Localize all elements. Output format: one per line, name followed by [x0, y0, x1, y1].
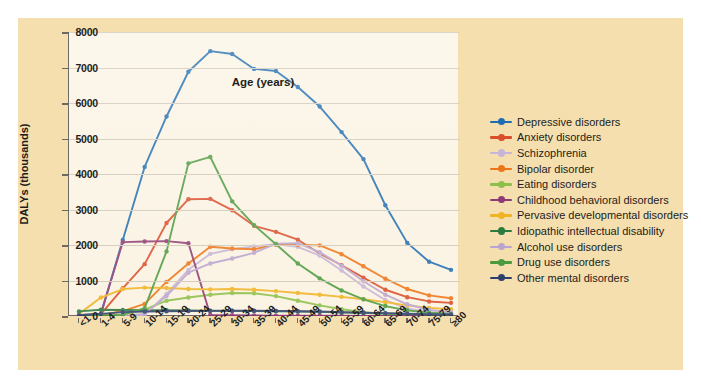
legend-item[interactable]: Pervasive developmental disorders: [490, 208, 680, 224]
chart-figure: 010002000300040005000600070008000 DALYs …: [18, 18, 683, 370]
gridline: [69, 32, 459, 33]
legend-label: Bipolar disorder: [517, 163, 594, 175]
legend-label: Drug use disorders: [517, 256, 610, 268]
data-point: [121, 287, 125, 291]
data-point: [230, 246, 234, 250]
gridline: [69, 139, 459, 140]
data-point: [186, 70, 190, 74]
legend-item[interactable]: Bipolar disorder: [490, 161, 680, 177]
data-point: [361, 284, 365, 288]
legend-label: Pervasive developmental disorders: [517, 209, 688, 221]
data-point: [186, 287, 190, 291]
legend-label: Alcohol use disorders: [517, 241, 622, 253]
y-tick-label: 3000: [60, 204, 98, 216]
legend-label: Depressive disorders: [517, 116, 620, 128]
data-point: [427, 299, 431, 303]
data-point: [186, 270, 190, 274]
data-point: [274, 230, 278, 234]
plot-area: [68, 32, 458, 316]
data-point: [318, 293, 322, 297]
data-point: [339, 263, 343, 267]
data-point: [339, 130, 343, 134]
legend-color-swatch: [490, 194, 512, 206]
legend-label: Childhood behavioral disorders: [517, 194, 669, 206]
data-point: [208, 49, 212, 53]
data-point: [383, 300, 387, 304]
y-axis-tick-labels: 010002000300040005000600070008000: [62, 32, 106, 316]
data-point: [274, 69, 278, 73]
data-point: [208, 252, 212, 256]
legend-color-swatch: [490, 256, 512, 268]
legend-item[interactable]: Childhood behavioral disorders: [490, 192, 680, 208]
y-axis-title: DALYs (thousands): [18, 123, 30, 224]
data-point: [339, 268, 343, 272]
data-point: [274, 289, 278, 293]
legend-label: Idiopathic intellectual disability: [517, 225, 664, 237]
data-point: [383, 203, 387, 207]
legend-color-swatch: [490, 241, 512, 253]
legend-item[interactable]: Depressive disorders: [490, 114, 680, 130]
data-point: [230, 256, 234, 260]
series-anxiety-disorders: [77, 197, 453, 316]
legend-item[interactable]: Alcohol use disorders: [490, 239, 680, 255]
legend-item[interactable]: Idiopathic intellectual disability: [490, 223, 680, 239]
data-point: [318, 250, 322, 254]
data-point: [449, 296, 453, 300]
x-axis-title: Age (years): [68, 76, 458, 88]
y-tick-label: 6000: [60, 97, 98, 109]
x-axis-tick-labels: <11-45-910-1415-1920-2425-2930-3435-3940…: [68, 318, 458, 358]
gridline: [69, 245, 459, 246]
data-point: [208, 261, 212, 265]
legend-item[interactable]: Other mental disorders: [490, 270, 680, 286]
plot-wrapper: 010002000300040005000600070008000 DALYs …: [68, 32, 460, 335]
data-point: [142, 239, 146, 243]
data-point: [252, 288, 256, 292]
data-point: [405, 295, 409, 299]
data-point: [339, 288, 343, 292]
legend-item[interactable]: Anxiety disorders: [490, 130, 680, 146]
legend-color-swatch: [490, 147, 512, 159]
data-point: [427, 293, 431, 297]
data-point: [164, 286, 168, 290]
data-point: [361, 297, 365, 301]
data-point: [230, 287, 234, 291]
data-point: [142, 165, 146, 169]
data-point: [296, 291, 300, 295]
legend-color-swatch: [490, 131, 512, 143]
gridline: [69, 103, 459, 104]
data-point: [274, 294, 278, 298]
data-point: [186, 295, 190, 299]
data-point: [164, 299, 168, 303]
legend-item[interactable]: Eating disorders: [490, 176, 680, 192]
series-line: [79, 199, 451, 315]
data-point: [252, 223, 256, 227]
scan-artifact: [0, 0, 701, 16]
chart-legend: Depressive disordersAnxiety disordersSch…: [490, 114, 680, 286]
gridline: [69, 281, 459, 282]
data-point: [164, 294, 168, 298]
series-drug-use-disorders: [77, 155, 453, 316]
legend-item[interactable]: Schizophrenia: [490, 145, 680, 161]
legend-color-swatch: [490, 209, 512, 221]
data-point: [186, 261, 190, 265]
data-point: [318, 104, 322, 108]
legend-label: Other mental disorders: [517, 272, 629, 284]
data-point: [164, 221, 168, 225]
data-point: [208, 293, 212, 297]
legend-color-swatch: [490, 178, 512, 190]
legend-label: Anxiety disorders: [517, 131, 601, 143]
legend-color-swatch: [490, 225, 512, 237]
y-tick-label: 2000: [60, 239, 98, 251]
data-point: [142, 262, 146, 266]
data-point: [208, 197, 212, 201]
data-point: [208, 287, 212, 291]
legend-item[interactable]: Drug use disorders: [490, 254, 680, 270]
data-point: [142, 285, 146, 289]
legend-label: Schizophrenia: [517, 147, 587, 159]
data-point: [405, 302, 409, 306]
data-point: [383, 293, 387, 297]
gridline: [69, 210, 459, 211]
data-point: [296, 261, 300, 265]
data-point: [361, 264, 365, 268]
data-point: [296, 299, 300, 303]
